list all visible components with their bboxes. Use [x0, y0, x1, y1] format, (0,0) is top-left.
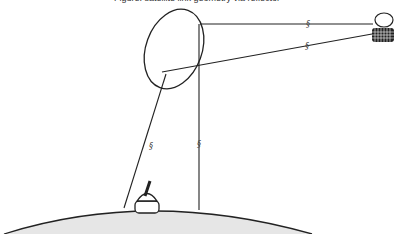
reflector-icon: [134, 1, 215, 97]
ground-station-icon: [135, 181, 159, 213]
link-lines: [124, 24, 373, 210]
break-mark-top: §: [306, 20, 310, 29]
break-mark-slant: §: [149, 142, 153, 151]
break-marks: § § § §: [149, 20, 310, 151]
break-mark-vertical: §: [197, 140, 201, 149]
break-mark-lower: §: [305, 42, 309, 51]
satellite-link-diagram: § § § §: [0, 0, 394, 234]
satellite-icon: [372, 13, 394, 42]
earth-surface: [4, 211, 312, 234]
